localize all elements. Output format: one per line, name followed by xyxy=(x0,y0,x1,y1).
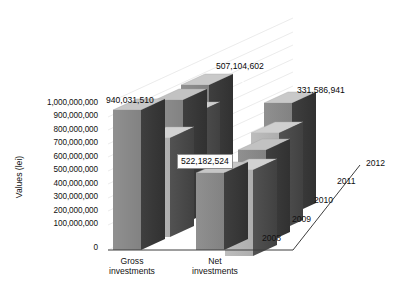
ytick-label: 100,000,000 xyxy=(4,220,98,228)
data-label-gross-2010: 507,104,602 xyxy=(216,61,264,72)
year-label-2009: 2009 xyxy=(292,215,311,224)
category-label-gross-line1: Gross xyxy=(121,256,144,266)
chart-3d-column: 1,000,000,000 900,000,000 800,000,000 70… xyxy=(0,0,402,290)
ytick-label: 1,000,000,000 xyxy=(4,99,98,107)
year-label-2008: 2008 xyxy=(262,234,281,243)
ytick-label: 900,000,000 xyxy=(4,112,98,120)
bar-net-2008 xyxy=(196,162,248,250)
category-label-net-line2: investments xyxy=(192,266,238,276)
ytick-label: 800,000,000 xyxy=(4,126,98,134)
year-label-2011: 2011 xyxy=(337,177,355,186)
bar-gross-2008 xyxy=(113,99,165,250)
data-label-net-2008: 522,182,524 xyxy=(177,154,233,169)
category-label-gross: Gross investments xyxy=(94,256,170,277)
ytick-label: 0 xyxy=(4,244,98,252)
y-axis-title: Values (lei) xyxy=(14,142,24,212)
year-label-2010: 2010 xyxy=(314,196,333,205)
category-label-net-line1: Net xyxy=(208,256,221,266)
data-label-gross-2008: 940,031,510 xyxy=(106,95,154,106)
data-label-net-2012: 331,586,941 xyxy=(297,85,345,96)
category-label-gross-line2: investments xyxy=(109,266,155,276)
year-label-2012: 2012 xyxy=(366,159,385,168)
category-label-net: Net investments xyxy=(177,256,253,277)
